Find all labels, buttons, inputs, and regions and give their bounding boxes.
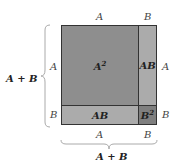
top-label-b: B xyxy=(144,12,151,22)
bottom-brace-icon xyxy=(60,139,158,151)
region-ab-right: AB xyxy=(138,25,157,106)
region-a-squared: A2 xyxy=(61,25,139,106)
right-label-a: A xyxy=(162,62,169,72)
bottom-brace-label: A + B xyxy=(96,152,128,162)
region-b-squared: B2 xyxy=(138,105,157,125)
region-ab-bottom: AB xyxy=(61,105,139,125)
region-a-squared-label: A2 xyxy=(94,59,107,72)
left-label-a: A xyxy=(50,62,57,72)
left-brace-label: A + B xyxy=(6,74,38,84)
region-ab-right-label: AB xyxy=(139,60,155,71)
region-ab-bottom-label: AB xyxy=(92,110,108,121)
top-label-a: A xyxy=(96,12,103,22)
region-b-squared-label: B2 xyxy=(141,108,154,121)
area-square: A2 AB AB B2 xyxy=(61,25,157,125)
right-label-b: B xyxy=(162,110,169,120)
left-label-b: B xyxy=(50,110,57,120)
